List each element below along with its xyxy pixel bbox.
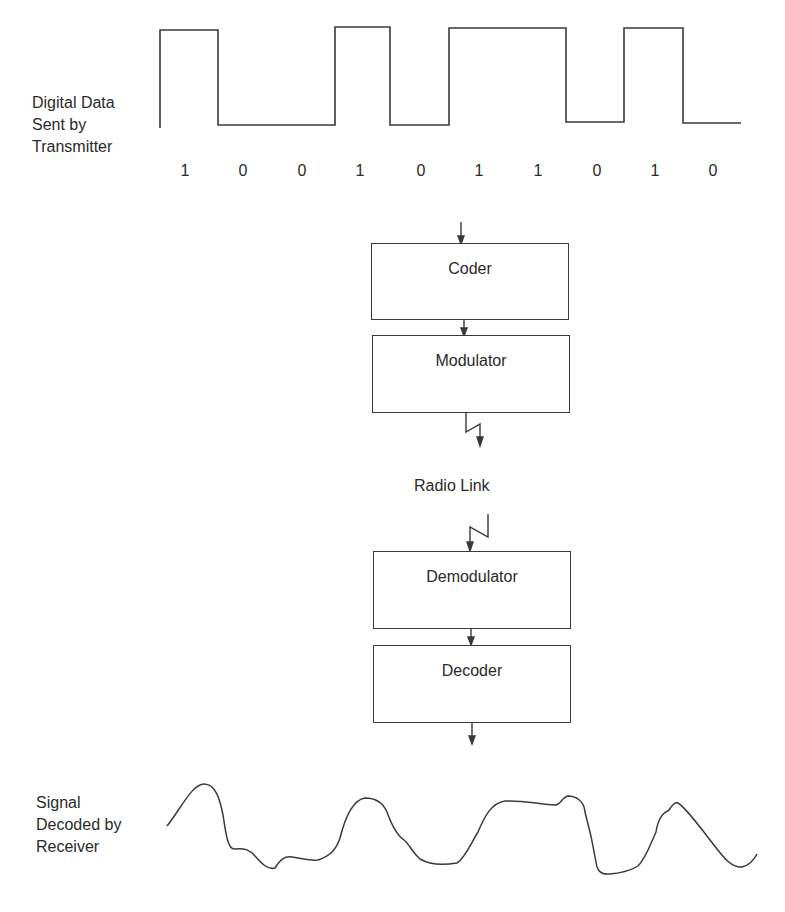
transmitter-label-line: Sent by bbox=[32, 114, 115, 136]
receiver-label-line: Receiver bbox=[36, 836, 121, 858]
diagram-lines bbox=[0, 0, 785, 912]
bit-label: 1 bbox=[350, 162, 370, 180]
digital-square-wave bbox=[160, 27, 741, 128]
bit-label: 1 bbox=[175, 162, 195, 180]
demodulator-label: Demodulator bbox=[426, 568, 518, 585]
bit-label: 0 bbox=[233, 162, 253, 180]
modulator-label: Modulator bbox=[435, 352, 506, 369]
demodulator-block: Demodulator bbox=[373, 551, 571, 629]
transmitter-label-line: Digital Data bbox=[32, 92, 115, 114]
lightning-arrow-transmit-icon bbox=[466, 412, 483, 446]
modulator-block: Modulator bbox=[372, 335, 570, 413]
arrow-out-of-decoder bbox=[469, 722, 475, 744]
bit-label: 1 bbox=[469, 162, 489, 180]
decoder-block: Decoder bbox=[373, 645, 571, 723]
received-analog-wave bbox=[167, 784, 757, 874]
bit-label: 0 bbox=[411, 162, 431, 180]
transmitter-label: Digital Data Sent by Transmitter bbox=[32, 92, 115, 158]
receiver-label: Signal Decoded by Receiver bbox=[36, 792, 121, 858]
bit-label: 1 bbox=[528, 162, 548, 180]
arrow-demodulator-to-decoder bbox=[468, 628, 474, 645]
bit-label: 1 bbox=[645, 162, 665, 180]
bit-label: 0 bbox=[587, 162, 607, 180]
coder-block: Coder bbox=[371, 243, 569, 320]
bit-label: 0 bbox=[703, 162, 723, 180]
arrow-coder-to-modulator bbox=[461, 319, 467, 336]
radio-link-label: Radio Link bbox=[414, 475, 490, 497]
receiver-label-line: Signal bbox=[36, 792, 121, 814]
bit-label: 0 bbox=[292, 162, 312, 180]
receiver-label-line: Decoded by bbox=[36, 814, 121, 836]
coder-label: Coder bbox=[448, 260, 492, 277]
transmitter-label-line: Transmitter bbox=[32, 136, 115, 158]
lightning-arrow-receive-icon bbox=[467, 514, 488, 551]
decoder-label: Decoder bbox=[442, 662, 502, 679]
arrow-into-coder bbox=[458, 222, 464, 244]
